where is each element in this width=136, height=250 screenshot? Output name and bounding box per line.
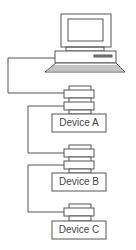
computer-icon bbox=[45, 14, 125, 72]
connector-b bbox=[64, 145, 94, 173]
device-b-label: Device B bbox=[54, 176, 104, 187]
device-c-label: Device C bbox=[54, 224, 104, 235]
connector-a bbox=[64, 86, 94, 114]
connector-c bbox=[64, 204, 94, 221]
device-a-label: Device A bbox=[54, 117, 104, 128]
